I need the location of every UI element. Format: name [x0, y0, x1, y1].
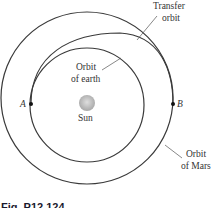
mars-orbit-label-line1: Orbit — [186, 149, 206, 159]
figure-caption: Fig. P12.124 — [1, 202, 65, 208]
earth-leader-line — [102, 58, 121, 70]
transfer-orbit-label-line1: Transfer — [153, 1, 185, 11]
point-b-label: B — [177, 99, 183, 109]
mars-leader-line — [165, 145, 182, 158]
point-a-marker — [29, 102, 33, 106]
orbit-diagram — [0, 0, 218, 208]
earth-orbit-label-line2: of earth — [71, 74, 100, 84]
earth-orbit-label-line1: Orbit — [76, 62, 96, 72]
point-a-label: A — [20, 99, 26, 109]
sun-icon — [79, 95, 95, 111]
mars-orbit-label-line2: of Mars — [181, 161, 211, 171]
transfer-orbit — [31, 33, 173, 104]
point-b-marker — [171, 102, 175, 106]
sun-label: Sun — [78, 113, 93, 123]
transfer-orbit-label-line2: orbit — [162, 13, 180, 23]
